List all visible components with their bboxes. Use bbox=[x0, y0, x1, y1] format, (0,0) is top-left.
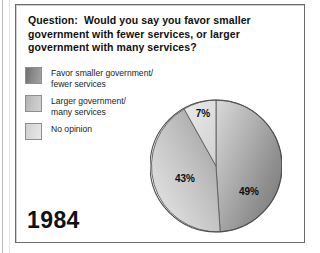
legend-item-label: No opinion bbox=[51, 123, 92, 135]
pie-label-7: 7% bbox=[196, 108, 211, 119]
legend-item-label-line-2: many services bbox=[51, 107, 126, 118]
medium-gray-swatch-icon bbox=[25, 95, 42, 112]
light-gray-swatch-icon bbox=[25, 123, 42, 140]
legend-item-label: Larger government/ many services bbox=[51, 95, 126, 117]
chart-panel: Question: Would you say you favor smalle… bbox=[15, 4, 305, 243]
legend-item-label-line-1: No opinion bbox=[51, 124, 92, 135]
pie-label-43: 43% bbox=[175, 173, 195, 184]
scanned-page: Question: Would you say you favor smalle… bbox=[0, 0, 320, 253]
legend-item-label-line-1: Larger government/ bbox=[51, 96, 126, 107]
page-edge-rule-secondary bbox=[9, 0, 10, 253]
legend-item-label-line-2: fewer services bbox=[51, 79, 153, 90]
page-title: Question: Would you say you favor smalle… bbox=[28, 14, 286, 55]
pie-chart: 49% 43% 7% bbox=[150, 98, 282, 234]
legend-item-label: Favor smaller government/ fewer services bbox=[51, 67, 153, 89]
question-line-1: Question: Would you say you favor smalle… bbox=[28, 14, 286, 28]
dark-gray-swatch-icon bbox=[25, 67, 42, 84]
page-edge-rule bbox=[2, 0, 3, 253]
question-line-3: government with many services? bbox=[28, 41, 286, 55]
legend-item-favor-smaller-government: Favor smaller government/ fewer services bbox=[25, 67, 185, 89]
year-label: 1984 bbox=[27, 207, 80, 234]
question-line-2: government with fewer services, or large… bbox=[28, 28, 286, 42]
pie-slice-favor-smaller-government bbox=[216, 100, 282, 232]
legend-item-label-line-1: Favor smaller government/ bbox=[51, 68, 153, 79]
pie-label-49: 49% bbox=[239, 186, 259, 197]
